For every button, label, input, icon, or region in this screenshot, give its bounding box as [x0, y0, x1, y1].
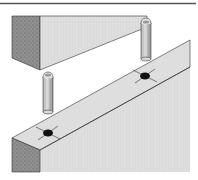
dowel-left: [43, 72, 53, 114]
dowel-joint-diagram: [0, 0, 198, 180]
upper-board: [12, 16, 147, 70]
dowel-right: [141, 18, 151, 61]
